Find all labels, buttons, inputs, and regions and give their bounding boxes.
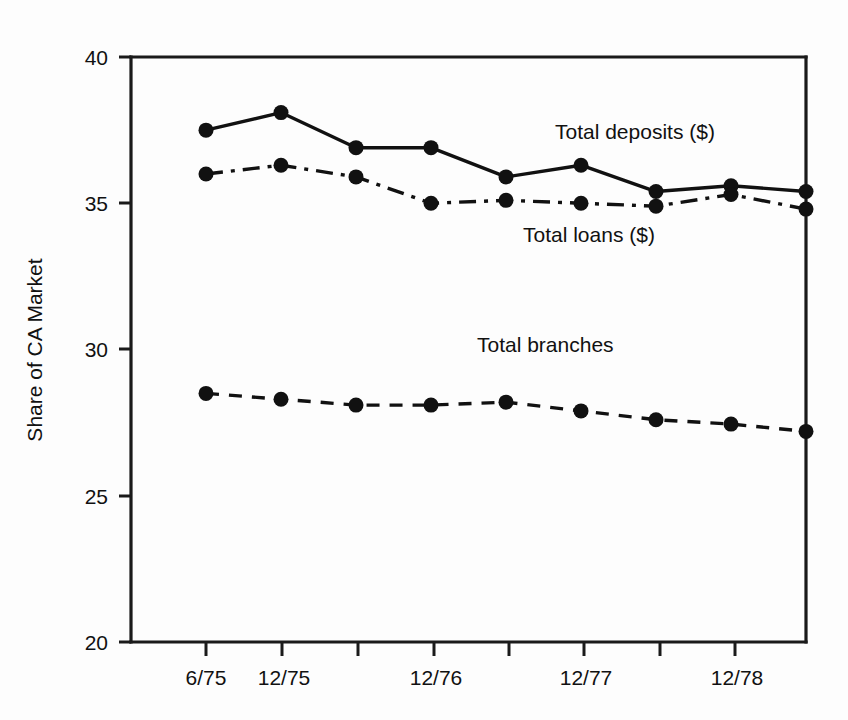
data-point bbox=[649, 184, 664, 199]
data-point bbox=[199, 123, 214, 138]
x-tick-label-0: 6/75 bbox=[186, 666, 227, 689]
y-tick-label-20: 20 bbox=[85, 631, 108, 654]
data-point bbox=[424, 140, 439, 155]
data-point bbox=[499, 169, 514, 184]
data-point bbox=[724, 187, 739, 202]
annotation-total-loans: Total loans ($) bbox=[523, 223, 655, 246]
data-point bbox=[799, 202, 814, 217]
y-tick-label-30: 30 bbox=[85, 338, 108, 361]
y-axis-ticks bbox=[119, 57, 131, 642]
y-axis-tick-labels: 40 35 30 25 20 bbox=[85, 46, 108, 654]
data-point bbox=[499, 193, 514, 208]
x-tick-label-7: 12/78 bbox=[711, 666, 764, 689]
annotation-total-branches: Total branches bbox=[477, 333, 614, 356]
data-point bbox=[274, 158, 289, 173]
y-tick-label-35: 35 bbox=[85, 192, 108, 215]
data-point bbox=[349, 140, 364, 155]
series-total-branches bbox=[199, 386, 814, 439]
data-point bbox=[574, 158, 589, 173]
plot-frame bbox=[131, 57, 806, 642]
data-point bbox=[574, 403, 589, 418]
series-total-deposits bbox=[199, 105, 814, 199]
y-axis-title: Share of CA Market bbox=[23, 258, 46, 441]
data-point bbox=[499, 395, 514, 410]
data-point bbox=[274, 105, 289, 120]
data-point bbox=[349, 169, 364, 184]
data-point bbox=[799, 184, 814, 199]
x-tick-label-3: 12/76 bbox=[410, 666, 463, 689]
chart-figure: 40 35 30 25 20 Share of CA Market 6/75 1… bbox=[0, 0, 848, 720]
line-chart: 40 35 30 25 20 Share of CA Market 6/75 1… bbox=[0, 0, 848, 720]
data-point bbox=[349, 398, 364, 413]
data-point bbox=[649, 412, 664, 427]
series-layer bbox=[199, 105, 814, 439]
data-point bbox=[424, 196, 439, 211]
data-point bbox=[649, 199, 664, 214]
data-point bbox=[799, 424, 814, 439]
x-axis-ticks bbox=[206, 642, 735, 656]
series-annotations: Total deposits ($) Total loans ($) Total… bbox=[477, 120, 715, 356]
data-point bbox=[199, 167, 214, 182]
y-tick-label-40: 40 bbox=[85, 46, 108, 69]
data-point bbox=[574, 196, 589, 211]
data-point bbox=[274, 392, 289, 407]
data-point bbox=[724, 417, 739, 432]
data-point bbox=[424, 398, 439, 413]
y-tick-label-25: 25 bbox=[85, 485, 108, 508]
data-point bbox=[199, 386, 214, 401]
x-tick-label-5: 12/77 bbox=[560, 666, 613, 689]
annotation-total-deposits: Total deposits ($) bbox=[555, 120, 715, 143]
x-axis-tick-labels: 6/75 12/75 12/76 12/77 12/78 bbox=[186, 666, 764, 689]
x-tick-label-1: 12/75 bbox=[258, 666, 311, 689]
